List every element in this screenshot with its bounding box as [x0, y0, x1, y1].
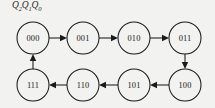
- arrow-head-icon: [30, 54, 36, 61]
- edge-001-to-010: [99, 35, 118, 41]
- node-label: 000: [27, 34, 40, 43]
- node-label: 110: [77, 81, 90, 90]
- state-node-011[interactable]: 011: [169, 22, 201, 54]
- state-graph: 000 001 010 011 100 101 110 111: [0, 0, 215, 108]
- edge-000-to-001: [49, 35, 67, 41]
- node-label: 111: [27, 81, 39, 90]
- edge-010-to-011: [150, 35, 169, 41]
- state-node-110[interactable]: 110: [67, 69, 99, 101]
- state-node-010[interactable]: 010: [118, 22, 150, 54]
- edge-111-to-000: [30, 54, 36, 69]
- state-node-111[interactable]: 111: [17, 69, 49, 101]
- node-label: 100: [179, 81, 192, 90]
- node-label: 011: [179, 34, 192, 43]
- arrow-head-icon: [162, 35, 169, 41]
- state-node-000[interactable]: 000: [17, 22, 49, 54]
- arrow-head-icon: [150, 82, 157, 88]
- arrow-head-icon: [99, 82, 106, 88]
- edge-110-to-111: [49, 82, 67, 88]
- state-diagram-canvas: Q2Q1Q0: [0, 0, 215, 108]
- node-label: 001: [77, 34, 90, 43]
- node-label: 010: [128, 34, 141, 43]
- state-node-101[interactable]: 101: [118, 69, 150, 101]
- edge-100-to-101: [150, 82, 169, 88]
- node-label: 101: [128, 81, 141, 90]
- arrow-head-icon: [60, 35, 67, 41]
- edge-101-to-110: [99, 82, 118, 88]
- state-node-100[interactable]: 100: [169, 69, 201, 101]
- edge-011-to-100: [182, 54, 188, 69]
- arrow-head-icon: [49, 82, 56, 88]
- state-node-001[interactable]: 001: [67, 22, 99, 54]
- arrow-head-icon: [182, 62, 188, 69]
- arrow-head-icon: [111, 35, 118, 41]
